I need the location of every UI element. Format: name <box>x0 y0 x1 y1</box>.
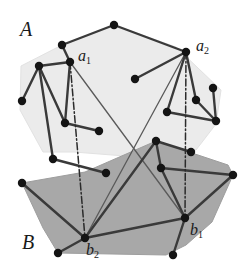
vertex-label-subscript: 1 <box>198 229 203 240</box>
graph-node-a_mid_l[interactable] <box>61 119 69 127</box>
vertex-label-b2: b2 <box>86 242 99 258</box>
graph-node-a2[interactable] <box>182 48 190 56</box>
graph-node-a_e_in[interactable] <box>163 108 171 116</box>
graph-node-a_e_lo[interactable] <box>212 117 220 125</box>
figure-root: A B a1 a2 b1 b2 <box>0 0 251 275</box>
graph-diagram <box>0 0 251 275</box>
hull-polygons <box>20 25 233 255</box>
graph-node-b_nw[interactable] <box>18 179 26 187</box>
set-label-b: B <box>22 232 34 252</box>
graph-node-a_center[interactable] <box>131 75 139 83</box>
graph-node-a_e_mid[interactable] <box>192 96 200 104</box>
graph-node-a_top[interactable] <box>110 21 118 29</box>
vertex-label-subscript: 2 <box>94 249 99 260</box>
vertex-label-subscript: 1 <box>86 55 91 66</box>
graph-node-a_e_hi[interactable] <box>209 84 217 92</box>
graph-node-a_bl[interactable] <box>49 155 57 163</box>
graph-node-b_se[interactable] <box>169 251 177 259</box>
graph-node-b_n3[interactable] <box>157 164 165 172</box>
vertex-label-a1: a1 <box>78 48 91 64</box>
vertex-label-a2: a2 <box>196 38 209 54</box>
graph-node-a_bl2[interactable] <box>102 169 110 177</box>
graph-node-b_e[interactable] <box>229 171 237 179</box>
graph-node-a_nw[interactable] <box>58 41 66 49</box>
graph-node-a_mid_r[interactable] <box>95 127 103 135</box>
set-label-a: A <box>20 19 32 39</box>
graph-node-b_sw[interactable] <box>54 249 62 257</box>
graph-node-b_n1[interactable] <box>152 137 160 145</box>
vertex-label-subscript: 2 <box>204 45 209 56</box>
graph-node-a_wlow[interactable] <box>18 97 26 105</box>
graph-node-a1[interactable] <box>66 58 74 66</box>
vertex-label-b1: b1 <box>190 222 203 238</box>
graph-node-a_w[interactable] <box>35 62 43 70</box>
graph-node-b_n2[interactable] <box>187 148 195 156</box>
graph-node-b1[interactable] <box>181 214 189 222</box>
